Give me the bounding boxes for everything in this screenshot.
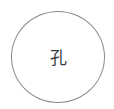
character-label: 孔 bbox=[50, 50, 67, 67]
character-circle-badge: 孔 bbox=[11, 11, 105, 103]
